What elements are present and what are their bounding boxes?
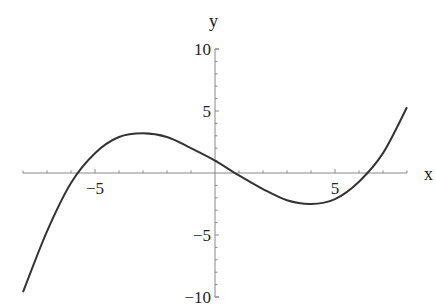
y-tick-label: 5 [203, 102, 212, 121]
x-axis-label: x [424, 164, 433, 184]
x-tick-label: −5 [86, 179, 104, 198]
y-axis-label: y [209, 11, 218, 31]
y-tick-label: −10 [184, 288, 211, 307]
x-tick-label: 5 [331, 179, 340, 198]
function-plot: −55105−5−10 x y [0, 0, 436, 308]
y-tick-label: 10 [194, 40, 211, 59]
y-tick-label: −5 [193, 226, 211, 245]
